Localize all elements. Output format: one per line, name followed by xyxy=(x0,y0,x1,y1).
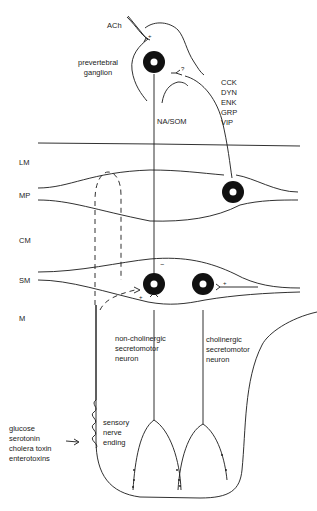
label-line: non-cholinergic xyxy=(115,334,166,344)
dashed-reflex-loop xyxy=(95,172,121,305)
non-cholinergic-branch-left xyxy=(133,420,154,490)
stimulus-item: serotonin xyxy=(9,434,52,444)
label-line: sensory xyxy=(103,418,129,428)
label-line: ending xyxy=(103,438,129,448)
lm-mp-boundary xyxy=(38,170,224,188)
na-som-label: NA/SOM xyxy=(157,117,187,127)
label-line: neuron xyxy=(115,354,166,364)
label-line: secretomotor xyxy=(206,345,250,355)
label-line: cholinergic xyxy=(206,335,250,345)
cholinergic-neuron-label: cholinergic secretomotor neuron xyxy=(206,335,250,365)
cholinergic-branch-left xyxy=(178,424,203,490)
myenteric-neuron-body xyxy=(222,181,244,203)
stimulus-item: glucose xyxy=(9,424,52,434)
layer-label-mp: MP xyxy=(19,191,30,201)
layer-label-sm: SM xyxy=(19,276,30,286)
cholinergic-input-sign: + xyxy=(223,278,227,288)
ganglion-neuron-body xyxy=(143,51,165,73)
stimulus-arrow xyxy=(66,441,78,442)
non-cholinergic-neuron-label: non-cholinergic secretomotor neuron xyxy=(115,334,166,364)
stimulus-item: cholera toxin xyxy=(9,444,52,454)
ach-fiber xyxy=(128,16,146,38)
sensory-nerve-label: sensory nerve ending xyxy=(103,418,129,448)
sensory-synapse-sign: + xyxy=(139,292,143,302)
cholinergic-input-synapse xyxy=(216,284,220,290)
peptide-item: ENK xyxy=(221,98,237,108)
na-som-synapse-sign: − xyxy=(160,260,164,270)
label-line: neuron xyxy=(206,355,250,365)
ach-sign: + xyxy=(148,31,152,41)
layer-label-lm: LM xyxy=(19,158,29,168)
ganglion-label-line: prevertebral xyxy=(78,58,118,68)
cholinergic-neuron-body xyxy=(192,273,214,295)
serosa-line xyxy=(38,143,300,146)
ganglion-label: prevertebral ganglion xyxy=(78,58,118,78)
lm-mp-boundary-right xyxy=(236,175,298,192)
stimulus-item: enterotoxins xyxy=(9,454,52,464)
label-line: secretomotor xyxy=(115,344,166,354)
peptide-item: VIP xyxy=(221,118,237,128)
mp-cm-boundary xyxy=(38,200,298,221)
cholinergic-branch-right xyxy=(203,424,227,480)
ganglion-label-line: ganglion xyxy=(78,68,118,78)
dashed-sensory-to-neuron xyxy=(100,290,135,310)
stimuli-list: glucose serotonin cholera toxin enteroto… xyxy=(9,424,52,464)
layer-label-m: M xyxy=(19,314,25,324)
unknown-sign: ? xyxy=(181,64,184,74)
ganglion-outline-lower xyxy=(162,82,188,103)
cm-sm-boundary xyxy=(38,258,300,288)
peptide-list: CCK DYN ENK GRP VIP xyxy=(221,78,237,128)
non-cholinergic-neuron-body xyxy=(143,273,165,295)
peptide-item: DYN xyxy=(221,88,237,98)
layer-label-cm: CM xyxy=(19,236,31,246)
non-cholinergic-branch-right xyxy=(154,420,181,490)
peptide-item: CCK xyxy=(221,78,237,88)
label-line: nerve xyxy=(103,428,129,438)
peptide-item: GRP xyxy=(221,108,237,118)
ach-label: ACh xyxy=(107,21,122,31)
